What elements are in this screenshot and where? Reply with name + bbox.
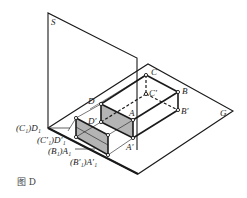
label-d: D: [87, 96, 95, 106]
label-b1a1: (B₁)A₁: [48, 146, 71, 156]
label-a-prime: A′: [125, 142, 134, 152]
point-a-prime: [131, 136, 134, 139]
point-a1-prime: [106, 153, 109, 156]
label-d-prime: D′: [87, 116, 97, 126]
label-c: C: [151, 67, 158, 77]
label-c1pd1p: (C′₁)D′₁: [37, 135, 66, 145]
label-plane-g: G: [220, 108, 227, 118]
point-d1-prime: [74, 135, 77, 138]
projection-diagram: S G C B B′ C′ A A′ D D′ (C₁)D₁ (C′₁)D′₁ …: [0, 0, 247, 198]
point-a: [131, 118, 134, 121]
projector-c: [90, 75, 146, 109]
point-d-prime: [99, 120, 102, 123]
label-c1d1: (C₁)D₁: [16, 123, 41, 133]
label-b-prime: B′: [181, 106, 189, 116]
label-plane-s: S: [51, 17, 56, 27]
label-c-prime: C′: [149, 88, 158, 98]
point-c: [144, 73, 147, 76]
edge-bpap: [133, 110, 178, 138]
point-d1: [74, 116, 77, 119]
point-b-prime: [176, 108, 179, 111]
figure-caption: 图 D: [17, 177, 36, 187]
point-a1: [106, 133, 109, 136]
label-a: A: [128, 108, 135, 118]
point-b: [176, 90, 179, 93]
point-d: [99, 102, 102, 105]
label-b: B: [182, 86, 188, 96]
label-b1pa1p: (B′₁)A′₁: [70, 157, 97, 167]
ground-line-a: [68, 118, 76, 131]
point-c-prime: [144, 92, 147, 95]
